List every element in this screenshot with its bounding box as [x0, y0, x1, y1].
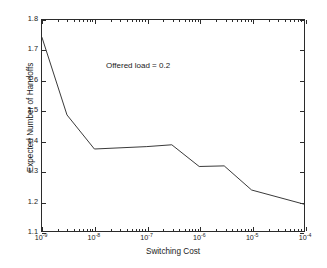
x-axis-tick-label: 10-9 [35, 234, 48, 241]
x-axis-tick-mark [306, 227, 307, 231]
x-axis-title: Switching Cost [41, 247, 305, 256]
data-line-chart [42, 20, 304, 231]
x-axis-tick-label: 10-5 [246, 234, 259, 241]
figure-canvas: 1.11.21.31.41.51.61.71.8 10-910-810-710-… [0, 0, 327, 268]
series-line-expected-number-of-handoffs [42, 37, 304, 204]
x-axis-tick-mark [306, 20, 307, 24]
x-axis-tick-label: 10-7 [140, 234, 153, 241]
x-axis-tick-label: 10-8 [87, 234, 100, 241]
y-axis-tick-label: 1.1 [8, 228, 38, 235]
y-axis-tick-mark [42, 233, 46, 234]
plot-area [41, 19, 305, 232]
y-axis-tick-mark [300, 233, 304, 234]
plot-annotation: Offered load = 0.2 [106, 61, 170, 70]
y-axis-title: Expected Number of Handoffs [26, 33, 35, 203]
y-axis-tick-label: 1.8 [8, 15, 38, 22]
x-axis-tick-label: 10-6 [193, 234, 206, 241]
x-axis-tick-label: 10-4 [299, 234, 312, 241]
